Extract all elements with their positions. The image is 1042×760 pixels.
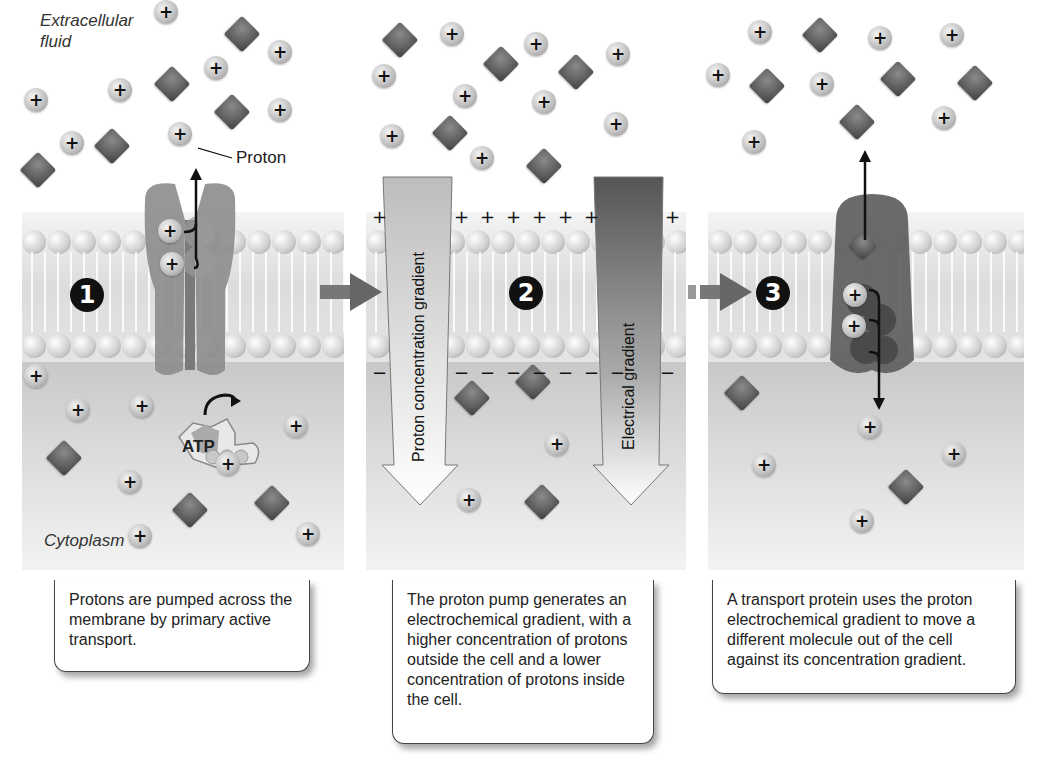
proton-icon: +: [216, 452, 240, 476]
proton-icon: +: [748, 20, 772, 44]
proton-icon: +: [604, 112, 628, 136]
proton-icon: +: [850, 509, 874, 533]
step-badge-2: 2: [509, 276, 543, 310]
membrane-charge: −: [610, 362, 625, 383]
atp-label: ATP: [182, 437, 215, 457]
lipid-head: [22, 334, 46, 358]
lipid-head: [297, 230, 321, 254]
proton-icon: +: [154, 0, 178, 24]
membrane-charge: +: [532, 206, 547, 227]
transition-arrow-2-to-3: [688, 273, 754, 313]
proton-icon: +: [268, 98, 292, 122]
electrical-gradient-label: Electrical gradient: [620, 250, 638, 450]
membrane-charge: +: [665, 206, 680, 227]
lipid-head: [933, 334, 957, 358]
caption-step-3: A transport protein uses the proton elec…: [712, 580, 1016, 694]
lipid-head: [272, 334, 296, 358]
proton-icon: +: [706, 63, 730, 87]
membrane-charge: −: [454, 362, 469, 383]
proton-icon: +: [296, 522, 320, 546]
lipid-head: [758, 230, 782, 254]
transition-arrow-1-to-2: [320, 273, 386, 313]
proton-icon: +: [868, 26, 892, 50]
extracellular-label-line1: Extracellular: [40, 10, 134, 31]
cotransport-arrows: [855, 150, 895, 415]
lipid-head: [708, 230, 732, 254]
step-badge-3: 3: [756, 276, 790, 310]
proton-leader-line: [198, 146, 238, 162]
lipid-head: [783, 230, 807, 254]
membrane-charge: −: [558, 362, 573, 383]
proton-icon: +: [545, 432, 569, 456]
proton-icon: +: [128, 524, 152, 548]
lipid-head: [72, 334, 96, 358]
lipid-head: [733, 230, 757, 254]
lipid-head: [247, 230, 271, 254]
caption-step-1: Protons are pumped across the membrane b…: [54, 580, 310, 672]
proton-icon: +: [380, 124, 404, 148]
proton-icon: +: [204, 56, 228, 80]
proton-icon: +: [108, 78, 132, 102]
lipid-head: [466, 230, 490, 254]
cytoplasm-label: Cytoplasm: [44, 530, 124, 551]
lipid-head: [541, 334, 565, 358]
lipid-head: [466, 334, 490, 358]
lipid-head: [1008, 230, 1024, 254]
lipid-head: [297, 334, 321, 358]
lipid-head: [708, 334, 732, 358]
membrane-charge: −: [660, 362, 675, 383]
proton-icon: +: [470, 146, 494, 170]
proton-icon: +: [858, 415, 882, 439]
lipid-head: [1008, 334, 1024, 358]
proton-icon: +: [942, 442, 966, 466]
extracellular-fluid-label: Extracellular fluid: [40, 10, 134, 52]
membrane-charge: −: [480, 362, 495, 383]
proton-icon: +: [268, 40, 292, 64]
lipid-head: [47, 334, 71, 358]
proton-icon: +: [24, 364, 48, 388]
proton-icon: +: [606, 42, 630, 66]
proton-concentration-gradient-label: Proton concentration gradient: [410, 182, 428, 462]
proton-label: Proton: [236, 148, 286, 168]
proton-icon: +: [457, 488, 481, 512]
proton-path-arrow: [176, 168, 206, 278]
lipid-head: [247, 334, 271, 358]
lipid-head: [97, 230, 121, 254]
caption-step-2: The proton pump generates an electrochem…: [392, 580, 654, 744]
proton-icon: +: [66, 398, 90, 422]
proton-icon: +: [940, 23, 964, 47]
membrane-charge: −: [372, 362, 387, 383]
lipid-head: [272, 230, 296, 254]
proton-icon: +: [130, 394, 154, 418]
proton-icon: +: [532, 90, 556, 114]
membrane-charge: −: [584, 362, 599, 383]
proton-icon: +: [932, 106, 956, 130]
lipid-head: [322, 334, 344, 358]
lipid-head: [958, 230, 982, 254]
step-badge-1: 1: [70, 278, 104, 312]
proton-icon: +: [284, 414, 308, 438]
lipid-head: [733, 334, 757, 358]
proton-icon: +: [524, 32, 548, 56]
membrane-charge: +: [584, 206, 599, 227]
membrane-charge: +: [558, 206, 573, 227]
lipid-head: [22, 230, 46, 254]
proton-icon: +: [60, 131, 84, 155]
lipid-head: [933, 230, 957, 254]
proton-icon: +: [742, 130, 766, 154]
proton-icon: +: [810, 72, 834, 96]
lipid-head: [47, 230, 71, 254]
proton-icon: +: [372, 64, 396, 88]
lipid-head: [783, 334, 807, 358]
lipid-head: [566, 230, 590, 254]
lipid-head: [541, 230, 565, 254]
lipid-head: [983, 230, 1007, 254]
membrane-charge: +: [480, 206, 495, 227]
membrane-charge: +: [454, 206, 469, 227]
proton-icon: +: [440, 22, 464, 46]
proton-icon: +: [168, 122, 192, 146]
extracellular-label-line2: fluid: [40, 31, 134, 52]
membrane-charge: +: [506, 206, 521, 227]
proton-icon: +: [752, 453, 776, 477]
lipid-head: [322, 230, 344, 254]
